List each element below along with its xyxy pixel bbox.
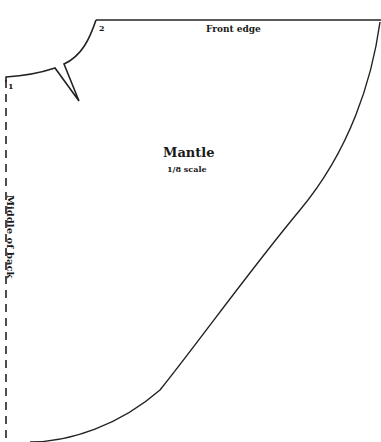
scale-label: 1/8 scale [167,164,207,174]
neckline-with-dart [6,20,96,101]
hem-curve [30,22,380,442]
pattern-diagram: 1 2 Front edge Mantle 1/8 scale Middle o… [0,0,381,442]
point-2-label: 2 [99,23,105,33]
point-1-label: 1 [8,81,14,91]
front-edge-label: Front edge [206,24,261,34]
pattern-title: Mantle [163,145,214,160]
middle-of-back-label: Middle of back [5,195,16,278]
mantle-pattern-outline [0,0,381,442]
